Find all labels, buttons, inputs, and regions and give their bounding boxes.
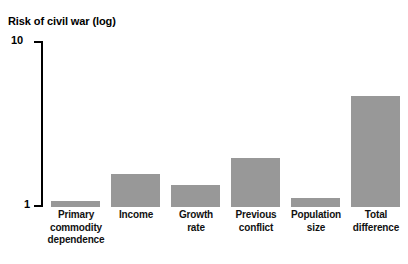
y-axis-label-min: 1 <box>24 198 30 210</box>
bar[interactable] <box>351 96 400 207</box>
bar[interactable] <box>171 185 220 207</box>
y-axis-label-max: 10 <box>11 34 23 46</box>
bar-slot <box>231 41 280 207</box>
chart-title: Risk of civil war (log) <box>8 15 116 27</box>
bar-slot <box>291 41 340 207</box>
category-label-line: difference <box>331 222 408 235</box>
y-axis-tick-top <box>34 41 41 43</box>
bar-slot <box>171 41 220 207</box>
bar[interactable] <box>111 174 160 207</box>
bar-slot <box>51 41 100 207</box>
bar[interactable] <box>51 201 100 207</box>
category-axis-labels: PrimarycommoditydependenceIncomeGrowthra… <box>43 209 408 264</box>
bar-slot <box>111 41 160 207</box>
bar-slot <box>351 41 400 207</box>
civil-war-risk-bar-chart: Risk of civil war (log) 10 1 Primarycomm… <box>0 0 408 264</box>
bar[interactable] <box>231 158 280 207</box>
y-axis-tick-bottom <box>34 205 41 207</box>
bar[interactable] <box>291 198 340 207</box>
category-label-line: Total <box>331 209 408 222</box>
category-label-line: dependence <box>31 234 121 247</box>
category-label-line: commodity <box>31 222 121 235</box>
plot-area <box>43 41 408 207</box>
category-label: Totaldifference <box>331 209 408 234</box>
